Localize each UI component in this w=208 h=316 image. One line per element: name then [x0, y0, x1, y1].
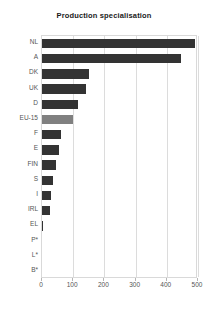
chart-container: Production specialisation NLADKUKDEU-15F… [0, 0, 208, 316]
x-axis-label: 500 [192, 281, 203, 288]
y-axis-label: DK [0, 69, 38, 76]
bar [42, 69, 89, 78]
y-axis-label: EL [0, 221, 38, 228]
x-axis-label: 300 [129, 281, 140, 288]
y-axis-label: UK [0, 85, 38, 92]
x-axis-tick-labels: 0100200300400500 [41, 281, 197, 295]
bar [42, 221, 43, 230]
x-axis-tick [166, 278, 167, 281]
bar [42, 84, 86, 93]
bar [42, 54, 181, 63]
y-axis-label: IRL [0, 206, 38, 213]
x-axis-tick [197, 278, 198, 281]
x-axis-tick [72, 278, 73, 281]
y-axis-label: I [0, 191, 38, 198]
x-axis-tick [135, 278, 136, 281]
y-axis-label: EU-15 [0, 115, 38, 122]
bar [42, 130, 61, 139]
y-axis-label: A [0, 54, 38, 61]
y-axis-label: FIN [0, 161, 38, 168]
plot-area [41, 35, 197, 278]
bar [42, 176, 53, 185]
y-axis-label: E [0, 145, 38, 152]
y-axis-label: D [0, 100, 38, 107]
y-axis-category-labels: NLADKUKDEU-15FEFINSIIRLELP*L*B* [0, 35, 38, 278]
y-axis-label: NL [0, 39, 38, 46]
bar [42, 145, 59, 154]
x-axis-label: 100 [67, 281, 78, 288]
bar [42, 206, 50, 215]
x-axis-label: 0 [39, 281, 43, 288]
y-axis-label: S [0, 176, 38, 183]
y-axis-label: F [0, 130, 38, 137]
bars-layer [42, 36, 196, 277]
bar [42, 39, 195, 48]
x-axis-label: 200 [98, 281, 109, 288]
gridline [198, 36, 199, 277]
bar [42, 160, 56, 169]
x-axis-tick [41, 278, 42, 281]
bar [42, 115, 73, 124]
x-axis-tick [103, 278, 104, 281]
y-axis-label: L* [0, 252, 38, 259]
y-axis-label: B* [0, 267, 38, 274]
bar [42, 191, 51, 200]
bar [42, 100, 78, 109]
x-axis-label: 400 [160, 281, 171, 288]
chart-title: Production specialisation [0, 11, 208, 20]
y-axis-label: P* [0, 237, 38, 244]
